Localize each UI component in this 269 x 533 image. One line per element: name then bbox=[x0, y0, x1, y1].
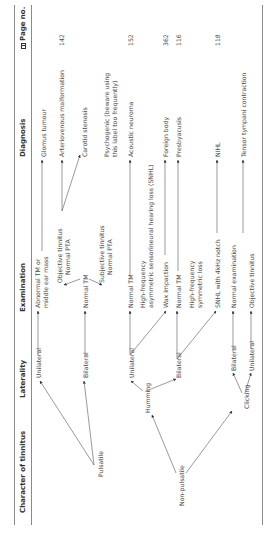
flow-arrows bbox=[0, 0, 269, 533]
tinnitus-flowchart-page: Character of tinnitus Laterality Examina… bbox=[0, 0, 269, 533]
